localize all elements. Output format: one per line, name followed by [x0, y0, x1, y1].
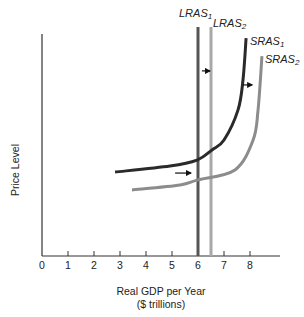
label-sras2-sub: 2	[295, 58, 299, 67]
label-lras1: LRAS1	[179, 8, 212, 21]
x-tick-label: 0	[39, 260, 45, 271]
x-ticks	[68, 251, 250, 256]
label-sras1: SRAS1	[250, 36, 284, 49]
label-lras2-sub: 2	[242, 22, 246, 31]
x-tick-label: 1	[65, 260, 71, 271]
x-axis-title-line1: Real GDP per Year	[116, 285, 205, 298]
y-axis-title: Price Level	[9, 144, 21, 196]
label-sras1-main: SRAS	[250, 35, 280, 47]
label-sras2-main: SRAS	[265, 53, 295, 65]
curve-sras1	[115, 38, 246, 172]
x-tick-label: 6	[195, 260, 201, 271]
label-sras1-sub: 1	[280, 40, 284, 49]
label-sras2: SRAS2	[265, 54, 299, 67]
x-axis-title-line2: ($ trillions)	[137, 298, 185, 311]
x-tick-label: 8	[247, 260, 253, 271]
label-lras1-sub: 1	[208, 12, 212, 21]
x-tick-label: 2	[91, 260, 97, 271]
shift-arrows	[175, 71, 252, 173]
x-tick-label: 4	[143, 260, 149, 271]
x-tick-label: 7	[221, 260, 227, 271]
label-lras2-main: LRAS	[213, 17, 242, 29]
series-group	[115, 27, 262, 256]
label-lras2: LRAS2	[213, 18, 246, 31]
x-tick-label: 5	[169, 260, 175, 271]
label-lras1-main: LRAS	[179, 7, 208, 19]
x-tick-label: 3	[117, 260, 123, 271]
